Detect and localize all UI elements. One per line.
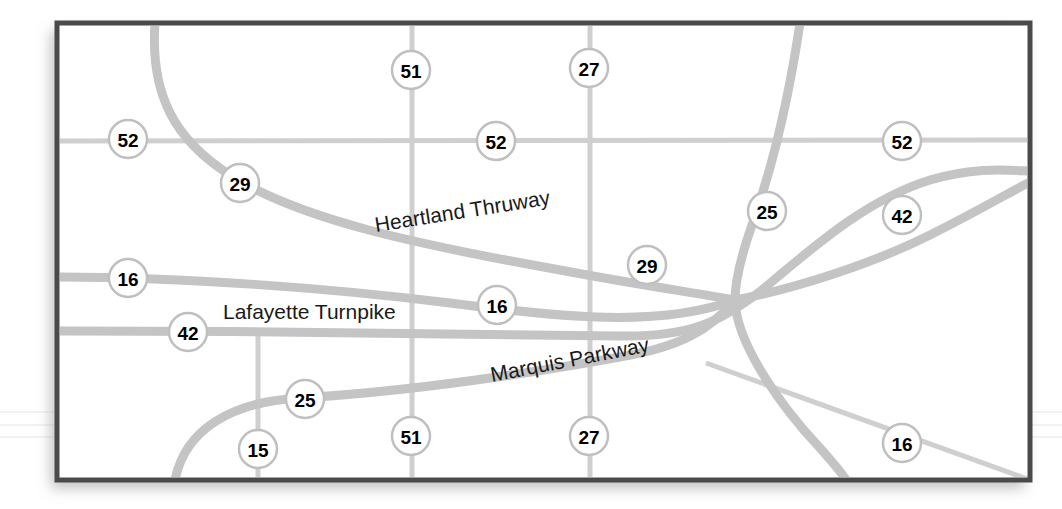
shield-29-upper-number: 29 <box>229 174 250 195</box>
shield-51-top-number: 51 <box>400 61 422 82</box>
shield-16-left-number: 16 <box>117 269 138 290</box>
shield-15-bottom[interactable]: 15 <box>239 430 277 468</box>
map-container: Heartland Thruway Lafayette Turnpike Mar… <box>0 0 1062 509</box>
shield-42-right-number: 42 <box>891 206 912 227</box>
shield-52-mid[interactable]: 52 <box>477 122 515 160</box>
shield-27-top[interactable]: 27 <box>570 49 608 87</box>
shield-25-upper-number: 25 <box>756 202 778 223</box>
map-svg: Heartland Thruway Lafayette Turnpike Mar… <box>0 0 1062 509</box>
shield-51-bottom[interactable]: 51 <box>392 417 430 455</box>
shield-52-mid-number: 52 <box>485 132 506 153</box>
shield-25-lower[interactable]: 25 <box>286 380 324 418</box>
shield-27-bottom[interactable]: 27 <box>570 417 608 455</box>
shield-27-bottom-number: 27 <box>578 427 599 448</box>
shield-52-right[interactable]: 52 <box>883 122 921 160</box>
shield-25-upper[interactable]: 25 <box>748 192 786 230</box>
shield-52-left-number: 52 <box>117 130 138 151</box>
shield-29-mid-number: 29 <box>636 256 657 277</box>
shield-52-left[interactable]: 52 <box>109 120 147 158</box>
shield-42-right[interactable]: 42 <box>883 196 921 234</box>
shield-16-mid[interactable]: 16 <box>478 286 516 324</box>
shield-15-bottom-number: 15 <box>247 440 269 461</box>
shield-42-left-number: 42 <box>177 323 198 344</box>
road-label-lafayette-turnpike: Lafayette Turnpike <box>223 300 396 323</box>
shield-51-bottom-number: 51 <box>400 427 422 448</box>
shield-52-right-number: 52 <box>891 132 912 153</box>
shield-25-lower-number: 25 <box>294 390 316 411</box>
shield-51-top[interactable]: 51 <box>392 51 430 89</box>
shield-16-right-number: 16 <box>891 434 912 455</box>
shield-16-left[interactable]: 16 <box>109 259 147 297</box>
shield-16-mid-number: 16 <box>486 296 507 317</box>
shield-29-mid[interactable]: 29 <box>628 246 666 284</box>
shield-16-right[interactable]: 16 <box>883 424 921 462</box>
shield-27-top-number: 27 <box>578 59 599 80</box>
shield-42-left[interactable]: 42 <box>169 313 207 351</box>
shield-29-upper[interactable]: 29 <box>221 164 259 202</box>
